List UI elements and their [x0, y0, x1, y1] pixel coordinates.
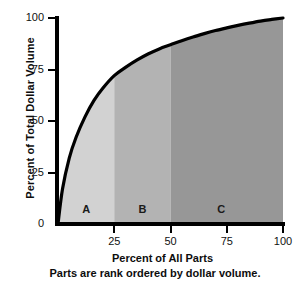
- y-tick-50: [48, 120, 55, 122]
- region-label-b: B: [132, 204, 152, 215]
- y-axis-title: Percent of Total Dollar Volume: [24, 28, 36, 208]
- x-tick-label-25: 25: [94, 236, 134, 247]
- x-tick-100: [282, 226, 284, 233]
- chart-note: Parts are rank ordered by dollar volume.: [10, 267, 300, 279]
- x-tick-75: [226, 226, 228, 233]
- y-tick-label-100: 100: [0, 12, 44, 23]
- x-axis-title: Percent of All Parts: [30, 252, 295, 264]
- pareto-abc-chart: 0255075100 255075100 ABC Percent of Tota…: [0, 0, 305, 287]
- x-tick-label-50: 50: [151, 236, 191, 247]
- y-tick-25: [48, 172, 55, 174]
- y-tick-100: [48, 17, 55, 19]
- y-tick-label-0: 0: [0, 218, 44, 229]
- y-tick-label-75: 75: [0, 64, 44, 75]
- x-tick-25: [113, 226, 115, 233]
- y-tick-label-25: 25: [0, 167, 44, 178]
- region-label-c: C: [211, 204, 231, 215]
- y-axis-line: [55, 16, 59, 226]
- region-label-a: A: [76, 204, 96, 215]
- x-tick-label-100: 100: [263, 236, 303, 247]
- region-band-a: [58, 14, 114, 224]
- region-band-c: [171, 14, 284, 224]
- region-band-b: [114, 14, 170, 224]
- y-tick-label-50: 50: [0, 115, 44, 126]
- x-tick-label-75: 75: [207, 236, 247, 247]
- x-tick-50: [170, 226, 172, 233]
- y-tick-75: [48, 69, 55, 71]
